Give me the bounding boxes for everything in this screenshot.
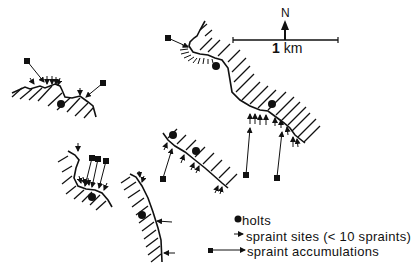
- legend-label: holts: [242, 213, 271, 228]
- north-arrow-icon: [281, 20, 289, 40]
- legend-label: spraint accumulations: [247, 244, 379, 259]
- legend-item-holts: holts: [233, 213, 411, 229]
- scale-unit: km: [284, 40, 303, 56]
- scale-value: 1: [272, 40, 280, 56]
- legend: holts spraint sites (< 10 spraints) spra…: [233, 213, 411, 260]
- legend-item-spraint-accumulations: spraint accumulations: [233, 244, 411, 260]
- scale-label: 1 km: [272, 40, 302, 56]
- legend-label: spraint sites (< 10 spraints): [246, 229, 411, 244]
- segment-5: [121, 171, 175, 262]
- segment-4: [58, 143, 112, 210]
- segment-3: [160, 129, 237, 194]
- north-label: N: [281, 6, 290, 20]
- segment-1: [12, 58, 106, 118]
- legend-item-spraint-sites: spraint sites (< 10 spraints): [233, 229, 411, 245]
